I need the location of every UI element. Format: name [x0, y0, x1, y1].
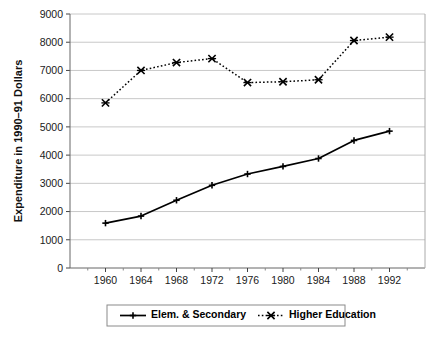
y-axis-tick-label: 8000	[40, 36, 64, 48]
legend-label: Elem. & Secondary	[151, 308, 246, 320]
x-axis-tick-label: 1980	[271, 274, 295, 286]
x-axis-tick-label: 1964	[129, 274, 153, 286]
y-axis-tick-label: 9000	[40, 8, 64, 20]
y-axis-tick-label: 5000	[40, 121, 64, 133]
y-axis-title: Expenditure in 1990–91 Dollars	[12, 60, 24, 223]
x-axis-tick-label: 1968	[165, 274, 189, 286]
x-axis-tick-label: 1992	[378, 274, 402, 286]
chart-background	[0, 0, 437, 337]
y-axis-tick-label: 7000	[40, 64, 64, 76]
line-chart: 0100020003000400050006000700080009000 19…	[0, 0, 437, 337]
y-axis-tick-label: 0	[57, 262, 63, 274]
y-axis-tick-label: 4000	[40, 149, 64, 161]
chart-legend: Elem. & SecondaryHigher Education	[107, 305, 376, 326]
x-axis-tick-label: 1960	[94, 274, 118, 286]
y-axis-tick-label: 1000	[40, 234, 64, 246]
x-axis-tick-label: 1972	[200, 274, 224, 286]
x-axis-tick-label: 1976	[236, 274, 260, 286]
x-axis-tick-label: 1984	[307, 274, 331, 286]
x-axis-tick-label: 1988	[342, 274, 366, 286]
y-axis-tick-label: 3000	[40, 177, 64, 189]
y-axis-tick-label: 6000	[40, 92, 64, 104]
y-axis-tick-label: 2000	[40, 205, 64, 217]
chart-container: 0100020003000400050006000700080009000 19…	[0, 0, 437, 337]
x-axis-tick-labels: 196019641968197219761980198419881992	[94, 274, 402, 286]
legend-label: Higher Education	[289, 308, 376, 320]
